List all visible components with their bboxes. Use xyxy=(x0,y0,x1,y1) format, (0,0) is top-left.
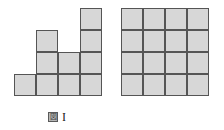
figure-label-cjk-icon: 図 xyxy=(48,112,58,122)
unit-square xyxy=(58,74,80,96)
unit-square xyxy=(14,74,36,96)
unit-square xyxy=(187,30,209,52)
unit-square xyxy=(36,52,58,74)
unit-square xyxy=(165,8,187,30)
figure-two: 図 II xyxy=(112,0,224,130)
unit-square xyxy=(80,8,102,30)
unit-square xyxy=(121,30,143,52)
unit-square xyxy=(36,30,58,52)
unit-square xyxy=(143,74,165,96)
unit-square xyxy=(80,30,102,52)
unit-square xyxy=(187,52,209,74)
unit-square xyxy=(121,8,143,30)
unit-square xyxy=(143,8,165,30)
unit-square xyxy=(121,52,143,74)
unit-square xyxy=(36,74,58,96)
unit-square xyxy=(187,8,209,30)
figure-panel: 図 I 図 II xyxy=(0,0,224,130)
unit-square xyxy=(165,30,187,52)
figure-one: 図 I xyxy=(0,0,112,130)
unit-square xyxy=(187,74,209,96)
unit-square xyxy=(80,52,102,74)
unit-square xyxy=(165,74,187,96)
figure-two-grid xyxy=(121,8,209,96)
figure-one-grid xyxy=(14,8,102,96)
unit-square xyxy=(143,30,165,52)
unit-square xyxy=(80,74,102,96)
unit-square xyxy=(143,52,165,74)
unit-square xyxy=(58,52,80,74)
unit-square xyxy=(165,52,187,74)
figure-one-caption: 図 I xyxy=(48,108,67,126)
unit-square xyxy=(121,74,143,96)
figure-one-numeral: I xyxy=(62,111,67,123)
